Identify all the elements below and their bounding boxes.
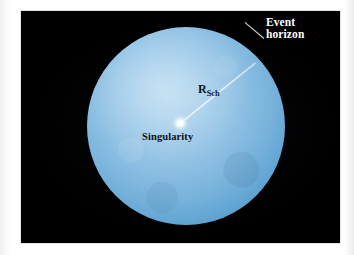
label-singularity: Singularity bbox=[142, 131, 193, 142]
label-rsch-subscript: Sch bbox=[207, 89, 220, 98]
figure-root: Event horizon RSch Singularity bbox=[0, 0, 354, 255]
label-event-horizon-line1: Event bbox=[266, 16, 304, 28]
event-horizon-leader-line bbox=[245, 22, 265, 39]
label-rsch-base: R bbox=[198, 82, 207, 96]
label-schwarzschild-radius: RSch bbox=[198, 83, 220, 96]
label-event-horizon: Event horizon bbox=[266, 16, 304, 41]
diagram-panel: Event horizon RSch Singularity bbox=[21, 11, 340, 243]
label-event-horizon-line2: horizon bbox=[266, 28, 304, 40]
singularity-core-point bbox=[178, 121, 183, 126]
